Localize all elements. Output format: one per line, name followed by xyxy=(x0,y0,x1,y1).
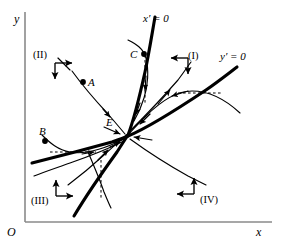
nullclines-group xyxy=(32,17,237,216)
trajectory-quadrant-2-tail xyxy=(58,58,70,70)
trajectory-vertical-bottom xyxy=(88,152,111,208)
phase-plane-svg: y x O x′ = 0 y′ = 0 E A B C (I) (II) (II… xyxy=(0,0,282,245)
trajectories-group xyxy=(34,40,240,208)
point-c-label: C xyxy=(130,48,138,60)
x-nullcline-label: x′ = 0 xyxy=(142,12,169,24)
point-a-dot xyxy=(80,79,86,85)
quadrant-4-arrows xyxy=(177,178,194,194)
labels-group: y x O x′ = 0 y′ = 0 E A B C (I) (II) (II… xyxy=(7,12,262,239)
origin-label: O xyxy=(7,225,16,239)
quadrant-2-arrows xyxy=(55,63,72,79)
quadrant-2-label: (II) xyxy=(33,49,47,61)
separatrix-upper-right-arrow xyxy=(158,90,170,104)
quadrant-3-arrows xyxy=(56,180,73,196)
quadrant-4-label: (IV) xyxy=(200,194,219,206)
quadrant-1-label: (I) xyxy=(188,50,199,62)
y-nullcline-label: y′ = 0 xyxy=(219,50,246,62)
trajectory-a xyxy=(72,71,125,134)
axes-group xyxy=(25,12,272,222)
y-axis-label: y xyxy=(13,12,20,26)
quadrant-1-arrows xyxy=(171,58,188,74)
point-a-label: A xyxy=(87,76,95,88)
point-b-dot xyxy=(42,138,48,144)
phase-plane-figure: y x O x′ = 0 y′ = 0 E A B C (I) (II) (II… xyxy=(0,0,282,245)
arrow-into-e-right xyxy=(134,137,152,140)
x-nullcline-curve xyxy=(74,17,155,216)
point-b-label: B xyxy=(39,125,46,137)
equilibrium-label: E xyxy=(105,116,113,128)
arrow-into-e-left xyxy=(104,127,120,134)
direction-arrows-group xyxy=(55,58,194,196)
equilibrium-dot xyxy=(125,134,129,138)
quadrant-3-label: (III) xyxy=(31,195,49,207)
point-c-dot xyxy=(141,51,147,57)
x-axis-label: x xyxy=(255,225,262,239)
